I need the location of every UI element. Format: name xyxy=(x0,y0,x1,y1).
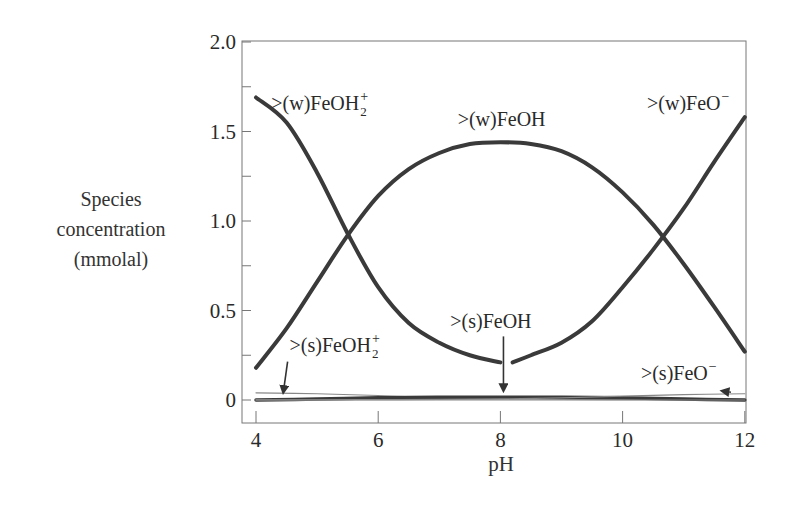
curve-label-subscript: 2 xyxy=(360,104,367,119)
curve-label-superscript: + xyxy=(372,331,380,346)
x-axis-label: pH xyxy=(476,452,526,477)
x-tick-label: 12 xyxy=(734,428,755,452)
y-tick-label: 1.0 xyxy=(210,209,236,233)
x-tick-label: 10 xyxy=(612,428,633,452)
x-tick-label: 6 xyxy=(373,428,384,452)
curve-label: >(s)FeOH xyxy=(450,310,531,333)
x-tick-label: 8 xyxy=(495,428,506,452)
x-axis-ticks: 4681012 xyxy=(251,411,756,452)
curve-label-superscript: − xyxy=(722,89,730,104)
y-axis-label-line-1: Species xyxy=(40,184,182,214)
curve-label: >(w)FeOH xyxy=(271,92,359,115)
curve-label: >(w)FeOH xyxy=(458,108,546,131)
curve-label-superscript: + xyxy=(360,89,368,104)
curve-label-superscript: − xyxy=(709,359,717,374)
curve-label-subscript: 2 xyxy=(372,346,379,361)
curve-label: >(s)FeO xyxy=(641,362,708,385)
y-axis-label: Species concentration (mmolal) xyxy=(40,184,182,274)
y-axis-label-line-3: (mmolal) xyxy=(40,244,182,274)
curve-label: >(w)FeO xyxy=(647,92,721,115)
series-line xyxy=(513,117,745,362)
y-axis-label-line-2: concentration xyxy=(40,214,182,244)
y-tick-label: 2.0 xyxy=(210,30,236,54)
arrow-pointer xyxy=(283,362,287,391)
x-tick-label: 4 xyxy=(251,428,262,452)
arrow-pointer xyxy=(723,391,731,392)
y-tick-label: 0.5 xyxy=(210,299,236,323)
y-axis-ticks: 00.51.01.52.0 xyxy=(210,30,251,412)
y-tick-label: 0 xyxy=(226,388,237,412)
y-tick-label: 1.5 xyxy=(210,120,236,144)
curve-label: >(s)FeOH xyxy=(290,334,371,357)
